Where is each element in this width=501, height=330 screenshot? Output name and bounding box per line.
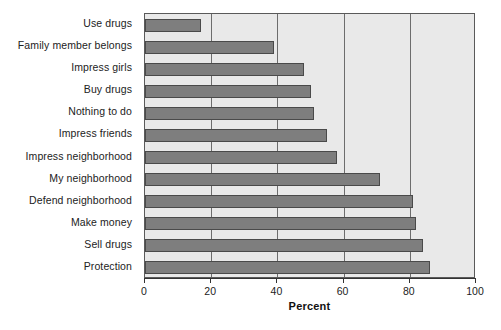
x-axis-tick [144,278,145,283]
bar [145,41,274,54]
category-label: Family member belongs [18,40,132,51]
x-axis-tick-label: 80 [403,285,415,297]
x-axis-tick-label: 0 [141,285,147,297]
x-axis-tick-label: 20 [204,285,216,297]
bar [145,261,430,274]
x-axis-tick [409,278,410,283]
x-axis-tick-label: 40 [271,285,283,297]
x-axis-title: Percent [144,300,475,312]
plot-area [144,13,475,278]
bar [145,217,416,230]
x-axis-line [144,278,475,279]
category-label: Use drugs [83,18,132,29]
x-axis-tick [475,278,476,283]
x-axis-tick [210,278,211,283]
bar [145,63,304,76]
bar-chart: Use drugsFamily member belongsImpress gi… [0,0,501,330]
category-label: Sell drugs [84,239,132,250]
bar [145,85,311,98]
category-label: Nothing to do [68,106,132,117]
bar [145,129,327,142]
bar [145,173,380,186]
category-label: Protection [84,261,132,272]
gridline [344,14,345,277]
category-label: Impress friends [59,128,132,139]
category-label: My neighborhood [49,173,132,184]
category-axis: Use drugsFamily member belongsImpress gi… [0,13,138,278]
bar [145,19,201,32]
bar [145,195,413,208]
category-label: Impress neighborhood [26,151,132,162]
x-axis-tick-label: 60 [337,285,349,297]
x-axis-tick [276,278,277,283]
gridline [410,14,411,277]
category-label: Make money [71,217,132,228]
bar [145,151,337,164]
bar [145,107,314,120]
category-label: Impress girls [71,62,132,73]
x-axis-tick [343,278,344,283]
gridline [277,14,278,277]
category-label: Defend neighborhood [29,195,132,206]
category-label: Buy drugs [84,84,132,95]
x-axis-tick-label: 100 [466,285,484,297]
bar [145,239,423,252]
